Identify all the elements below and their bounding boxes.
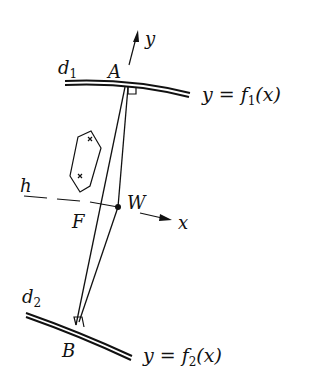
label-curve1-equation: y=f1(x) — [201, 83, 281, 108]
hexagon-body — [70, 131, 101, 192]
label-h: h — [20, 175, 32, 196]
label-a: A — [106, 61, 121, 82]
label-curve2-equation: y=f2(x) — [142, 344, 222, 369]
label-d2: d2 — [22, 286, 41, 310]
label-b: B — [61, 340, 75, 361]
label-x-axis: x — [178, 212, 188, 233]
y-axis-arrow — [129, 30, 139, 65]
label-f: F — [71, 211, 86, 232]
diagram-canvas: y x A B W F h d1 d2 y=f1(x) y=f2(x) — [0, 0, 332, 390]
label-w: W — [127, 192, 147, 213]
h-dashed-line — [24, 196, 118, 207]
label-y-axis: y — [144, 28, 156, 49]
label-d1: d1 — [58, 57, 77, 81]
point-w — [115, 204, 121, 210]
x-axis-arrow — [140, 213, 172, 221]
